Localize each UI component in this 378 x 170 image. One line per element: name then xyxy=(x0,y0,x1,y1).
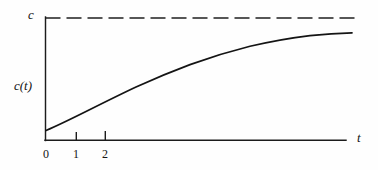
asymptote-label: c xyxy=(28,8,34,21)
concentration-curve xyxy=(46,33,352,131)
x-tick-label-0: 0 xyxy=(39,148,53,160)
y-axis-label: c(t) xyxy=(14,79,32,92)
x-axis-label: t xyxy=(357,131,361,144)
figure-container: c c(t) t 0 1 2 xyxy=(0,0,378,170)
x-tick-label-1: 1 xyxy=(69,148,83,160)
figure-canvas xyxy=(0,0,378,170)
x-tick-label-2: 2 xyxy=(98,148,112,160)
